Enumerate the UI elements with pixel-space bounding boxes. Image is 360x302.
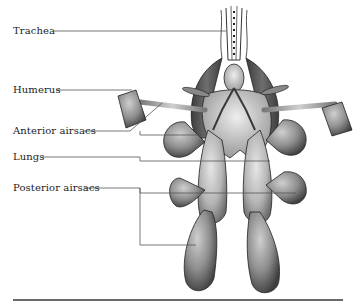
bird-respiratory-diagram: Trachea Humerus Anterior airsacs Lungs P… bbox=[0, 0, 360, 302]
trachea-shape bbox=[221, 6, 247, 92]
label-lungs: Lungs bbox=[13, 151, 45, 163]
anatomy-illustration bbox=[0, 0, 360, 302]
posterior-small-airsacs-shape bbox=[170, 172, 307, 207]
posterior-large-airsacs-shape bbox=[184, 210, 279, 293]
label-anterior-airsacs: Anterior airsacs bbox=[13, 125, 96, 137]
label-trachea: Trachea bbox=[13, 25, 55, 37]
label-humerus: Humerus bbox=[13, 84, 61, 96]
label-posterior-airsacs: Posterior airsacs bbox=[13, 182, 100, 194]
bottom-rule bbox=[13, 299, 343, 301]
